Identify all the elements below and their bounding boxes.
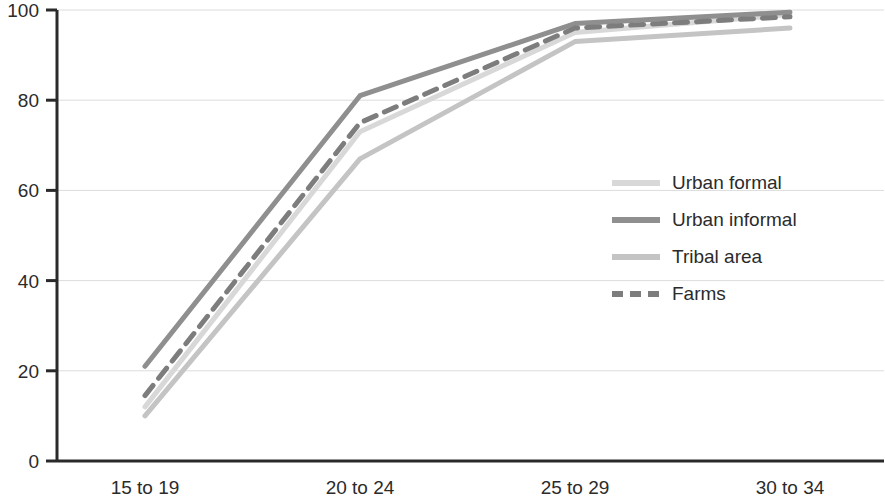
x-tick-label-3: 30 to 34 — [756, 477, 825, 498]
legend-label-urban-informal: Urban informal — [672, 209, 797, 230]
legend-label-urban-formal: Urban formal — [672, 172, 782, 193]
x-tick-label-0: 15 to 19 — [111, 477, 180, 498]
y-tick-label-80: 80 — [18, 90, 39, 111]
legend-label-tribal-area: Tribal area — [672, 246, 763, 267]
y-tick-label-20: 20 — [18, 361, 39, 382]
line-chart: 020406080100 15 to 1920 to 2425 to 2930 … — [0, 0, 885, 499]
y-tick-label-40: 40 — [18, 271, 39, 292]
y-tick-label-100: 100 — [7, 0, 39, 21]
series-line-farms — [145, 17, 790, 396]
y-tick-label-60: 60 — [18, 180, 39, 201]
x-tick-label-2: 25 to 29 — [541, 477, 610, 498]
y-tick-label-0: 0 — [28, 451, 39, 472]
x-axis-ticks: 15 to 1920 to 2425 to 2930 to 34 — [111, 477, 825, 498]
legend-label-farms: Farms — [672, 283, 726, 304]
chart-canvas: 020406080100 15 to 1920 to 2425 to 2930 … — [0, 0, 885, 499]
legend: Urban formalUrban informalTribal areaFar… — [612, 172, 797, 304]
y-axis-ticks: 020406080100 — [7, 0, 57, 472]
x-tick-label-1: 20 to 24 — [326, 477, 395, 498]
axes — [57, 10, 884, 461]
